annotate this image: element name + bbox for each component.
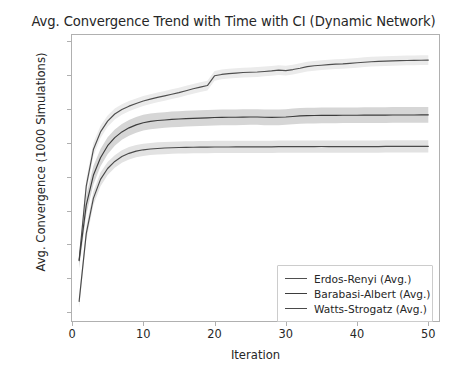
legend-line-icon [285, 293, 307, 294]
y-tick-mark [67, 109, 71, 110]
confidence-band [79, 107, 428, 269]
x-tick-label: 40 [337, 327, 377, 341]
x-tick-mark [286, 322, 287, 326]
y-tick-mark [67, 278, 71, 279]
x-tick-mark [428, 322, 429, 326]
legend-item[interactable]: Watts-Strogatz (Avg.) [285, 301, 425, 316]
y-tick-mark [67, 211, 71, 212]
x-tick-mark [357, 322, 358, 326]
y-tick-mark [67, 75, 71, 76]
x-axis-label: Iteration [71, 348, 440, 362]
chart-legend[interactable]: Erdos-Renyi (Avg.)Barabasi-Albert (Avg.)… [277, 265, 433, 322]
legend-label: Barabasi-Albert (Avg.) [314, 288, 430, 300]
y-tick-mark [67, 312, 71, 313]
series-line [79, 115, 428, 261]
confidence-band [79, 55, 428, 265]
y-tick-mark [67, 244, 71, 245]
legend-line-icon [285, 278, 307, 279]
y-tick-mark [67, 41, 71, 42]
legend-label: Watts-Strogatz (Avg.) [314, 303, 427, 315]
legend-item[interactable]: Barabasi-Albert (Avg.) [285, 286, 425, 301]
series-line [79, 60, 428, 260]
y-axis-label: Avg. Convergence (1000 Simulations) [34, 37, 48, 287]
legend-item[interactable]: Erdos-Renyi (Avg.) [285, 271, 425, 286]
y-tick-mark [67, 143, 71, 144]
x-tick-mark [72, 322, 73, 326]
chart-title: Avg. Convergence Trend with Time with CI… [0, 14, 467, 29]
legend-label: Erdos-Renyi (Avg.) [314, 273, 411, 285]
x-tick-mark [143, 322, 144, 326]
chart-figure: Avg. Convergence Trend with Time with CI… [0, 0, 467, 370]
x-tick-mark [215, 322, 216, 326]
x-tick-label: 50 [408, 327, 448, 341]
x-tick-label: 20 [195, 327, 235, 341]
x-tick-label: 30 [266, 327, 306, 341]
x-tick-label: 0 [52, 327, 92, 341]
legend-line-icon [285, 308, 307, 309]
x-tick-label: 10 [123, 327, 163, 341]
y-tick-mark [67, 177, 71, 178]
